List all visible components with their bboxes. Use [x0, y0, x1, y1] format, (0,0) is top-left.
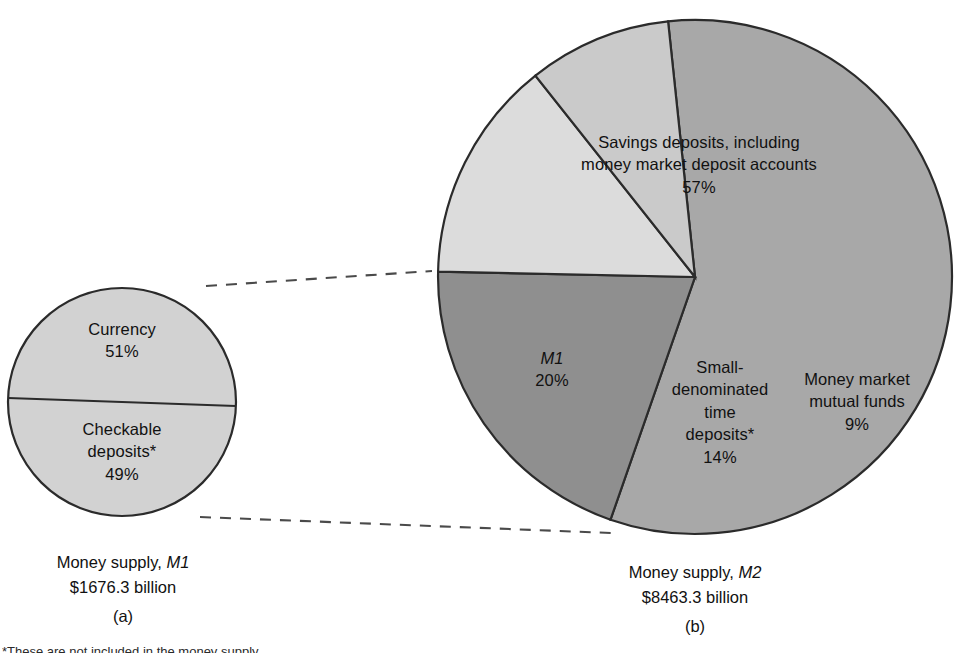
m1-caption: Money supply, M1 $1676.3 billion — [0, 550, 246, 600]
m2-label-money-market-mutual-funds: Money market mutual funds 9% — [782, 368, 932, 435]
m2-caption-amount: $8463.3 billion — [560, 585, 830, 610]
footnote: *These are not included in the money sup… — [2, 644, 602, 653]
m1-label-currency-pct: 51% — [22, 340, 222, 362]
m2-label-small-line3: time — [657, 401, 783, 423]
m2-label-mmmf-line2: mutual funds — [782, 390, 932, 412]
m2-label-m1: M1 20% — [497, 347, 607, 392]
m1-label-checkable-line1: Checkable — [22, 418, 222, 440]
m2-label-m1-name: M1 — [497, 347, 607, 369]
m1-label-checkable-asterisk: * — [150, 442, 157, 460]
m2-label-savings-deposits: Savings deposits, including money market… — [519, 131, 879, 198]
leader-line-bottom — [200, 517, 611, 533]
m2-caption: Money supply, M2 $8463.3 billion — [560, 560, 830, 610]
m2-label-small-word: deposits — [686, 425, 748, 443]
m2-label-small-asterisk: * — [748, 425, 755, 443]
m1-label-checkable-pct: 49% — [22, 463, 222, 485]
money-supply-figure: Currency 51% Checkable deposits* 49% Sav… — [0, 0, 961, 653]
m1-label-currency: Currency 51% — [22, 318, 222, 363]
m2-label-savings-pct: 57% — [519, 176, 879, 198]
m2-label-savings-line2: money market deposit accounts — [519, 153, 879, 175]
m2-label-small-line2: denominated — [657, 378, 783, 400]
m1-caption-title-symbol: M1 — [166, 553, 189, 571]
m1-caption-amount: $1676.3 billion — [0, 575, 246, 600]
m2-label-small-pct: 14% — [657, 446, 783, 468]
m1-label-currency-name: Currency — [22, 318, 222, 340]
m2-label-savings-line1: Savings deposits, including — [519, 131, 879, 153]
m2-label-small-line1: Small- — [657, 356, 783, 378]
m2-caption-title-prefix: Money supply, — [629, 563, 739, 581]
m1-caption-title: Money supply, M1 — [0, 550, 246, 575]
m2-label-small-line4: deposits* — [657, 423, 783, 445]
m1-caption-title-prefix: Money supply, — [57, 553, 167, 571]
m2-caption-title-symbol: M2 — [738, 563, 761, 581]
m1-label-checkable-deposits: Checkable deposits* 49% — [22, 418, 222, 485]
m2-label-m1-pct: 20% — [497, 369, 607, 391]
m2-label-small-denominated-time-deposits: Small- denominated time deposits* 14% — [657, 356, 783, 468]
m1-label-checkable-word: deposits — [88, 442, 150, 460]
m2-label-mmmf-pct: 9% — [782, 413, 932, 435]
m2-label-mmmf-line1: Money market — [782, 368, 932, 390]
m1-panel-letter: (a) — [0, 607, 246, 626]
m2-panel-letter: (b) — [560, 617, 830, 636]
m1-label-checkable-line2: deposits* — [22, 440, 222, 462]
m2-caption-title: Money supply, M2 — [560, 560, 830, 585]
leader-line-top — [206, 271, 432, 286]
